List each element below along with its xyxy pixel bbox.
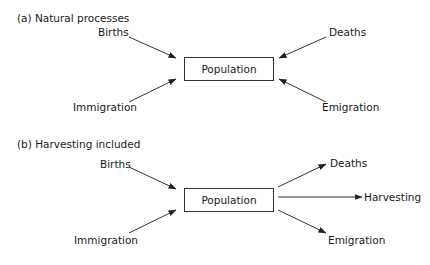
label-emigration-a: Emigration [322, 102, 379, 113]
arrow-immigration-a [129, 79, 176, 102]
panel-a-title: (a) Natural processes [17, 13, 129, 24]
label-emigration-b: Emigration [328, 235, 385, 246]
panel-b-title: (b) Harvesting included [17, 139, 140, 150]
arrow-immigration-b [129, 210, 176, 233]
label-immigration-b: Immigration [74, 235, 138, 246]
arrow-deaths-a [279, 37, 326, 58]
label-harvesting-b: Harvesting [364, 192, 421, 203]
population-label-a: Population [201, 63, 256, 75]
label-immigration-a: Immigration [73, 102, 137, 113]
label-births-a: Births [98, 27, 129, 38]
arrow-births-b [129, 167, 176, 189]
population-box-b: Population [184, 188, 274, 212]
arrow-deaths-b [278, 164, 326, 187]
arrow-emigration-a [279, 79, 326, 102]
arrow-emigration-b [278, 210, 326, 233]
population-label-b: Population [201, 194, 256, 206]
label-births-b: Births [100, 159, 131, 170]
label-deaths-b: Deaths [330, 158, 367, 169]
population-box-a: Population [184, 57, 274, 81]
label-deaths-a: Deaths [329, 27, 366, 38]
arrow-births-a [129, 37, 176, 58]
arrows-layer [0, 0, 430, 265]
